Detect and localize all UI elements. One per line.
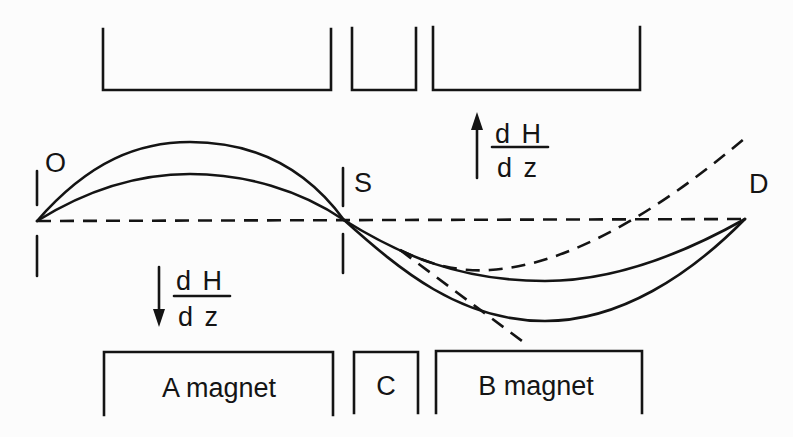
gradient-up-denominator: d z	[497, 153, 539, 183]
point-ticks	[37, 168, 343, 276]
point-s-label: S	[354, 168, 372, 198]
bottom-magnets: A magnet C B magnet	[104, 351, 642, 415]
down-arrow-icon	[153, 309, 165, 327]
stern-gerlach-rabi-diagram: A magnet C B magnet O S D d H d z d H d …	[0, 0, 793, 437]
axis-dashed-line	[37, 219, 745, 221]
gradient-down-denominator: d z	[178, 302, 220, 332]
top-magnet-a	[103, 29, 331, 90]
top-magnet-c	[352, 28, 416, 90]
top-magnets	[103, 27, 640, 90]
trajectory-dashed-curve	[400, 138, 745, 270]
up-arrow-icon	[471, 112, 483, 130]
trajectory-lower-deep-arc	[344, 219, 745, 321]
point-o-label: O	[45, 148, 66, 178]
trajectory-dashed-straight	[400, 250, 522, 341]
b-magnet-label: B magnet	[478, 371, 594, 401]
gradient-up-indicator: d H d z	[471, 112, 548, 183]
c-magnet-label: C	[376, 371, 396, 401]
gradient-down-indicator: d H d z	[153, 266, 230, 332]
point-d-label: D	[749, 169, 769, 199]
gradient-up-numerator: d H	[495, 119, 543, 149]
a-magnet-label: A magnet	[162, 373, 277, 403]
trajectory-upper-high-arc	[37, 142, 344, 221]
top-magnet-b	[433, 27, 640, 90]
gradient-down-numerator: d H	[176, 266, 224, 296]
trajectory-upper-low-arc	[37, 174, 344, 221]
